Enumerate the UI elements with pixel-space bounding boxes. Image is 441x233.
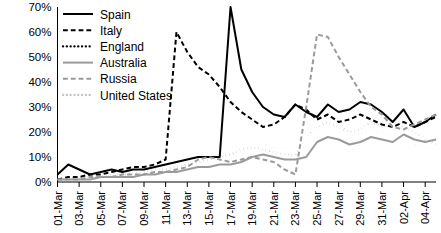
x-tick-label: 05-Mar [95, 191, 107, 226]
legend-label-spain: Spain [100, 8, 131, 22]
x-tick-label: 31-Mar [376, 191, 388, 226]
legend-label-italy: Italy [100, 24, 122, 38]
y-tick-label: 0% [35, 176, 52, 188]
chart-canvas: 0%10%20%30%40%50%60%70% 01-Mar03-Mar05-M… [0, 0, 441, 233]
x-tick-label: 07-Mar [116, 191, 128, 226]
series-line-australia [58, 135, 437, 180]
x-tick-label: 15-Mar [203, 191, 215, 226]
x-tick-label: 29-Mar [354, 191, 366, 226]
x-tick-label: 02-Apr [398, 191, 410, 224]
y-tick-label: 20% [28, 126, 51, 138]
x-tick-label: 01-Mar [52, 191, 64, 226]
x-axis-tick-labels: 01-Mar03-Mar05-Mar07-Mar09-Mar11-Mar13-M… [52, 191, 432, 226]
line-chart: 0%10%20%30%40%50%60%70% 01-Mar03-Mar05-M… [0, 0, 441, 233]
series-line-italy [58, 32, 437, 180]
y-tick-label: 40% [28, 76, 51, 88]
y-axis-tick-labels: 0%10%20%30%40%50%60%70% [28, 1, 51, 188]
y-tick-label: 10% [28, 151, 51, 163]
x-tick-label: 04-Apr [419, 191, 431, 224]
x-tick-label: 21-Mar [268, 191, 280, 226]
y-tick-label: 60% [28, 26, 51, 38]
x-tick-label: 27-Mar [333, 191, 345, 226]
legend-label-england: England [100, 40, 144, 54]
y-tick-label: 30% [28, 101, 51, 113]
x-tick-label: 25-Mar [311, 191, 323, 226]
chart-legend: SpainItalyEnglandAustraliaRussiaUnited S… [63, 8, 172, 103]
x-tick-label: 23-Mar [289, 191, 301, 226]
x-axis-ticks [58, 182, 426, 187]
x-tick-label: 03-Mar [73, 191, 85, 226]
x-tick-label: 11-Mar [160, 191, 172, 225]
x-tick-label: 13-Mar [181, 191, 193, 226]
x-tick-label: 19-Mar [246, 191, 258, 226]
x-tick-label: 17-Mar [225, 191, 237, 226]
y-tick-label: 70% [28, 1, 51, 13]
legend-label-united-states: United States [100, 89, 172, 103]
legend-label-russia: Russia [100, 72, 137, 86]
x-tick-label: 09-Mar [138, 191, 150, 226]
legend-label-australia: Australia [100, 56, 147, 70]
y-tick-label: 50% [28, 51, 51, 63]
